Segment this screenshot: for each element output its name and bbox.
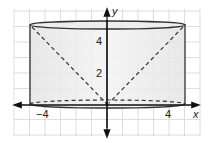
x-axis-label: x: [193, 108, 199, 120]
y-tick-2: 2: [96, 67, 102, 79]
diagram-canvas: [0, 0, 211, 143]
origin-point: [105, 102, 108, 105]
y-tick-4: 4: [96, 35, 102, 47]
x-tick-neg4: −4: [36, 108, 49, 120]
cylinder-cone-diagram: y x 4 2 −4 4: [0, 0, 211, 143]
x-tick-4: 4: [165, 108, 171, 120]
y-axis-label: y: [112, 5, 118, 17]
